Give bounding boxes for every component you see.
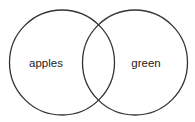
venn-diagram: apples green [0, 0, 195, 122]
set-label-green: green [131, 57, 160, 69]
set-label-apples: apples [29, 57, 63, 69]
